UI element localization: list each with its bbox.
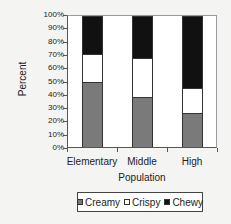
bar-middle: [132, 16, 153, 147]
y-tick-label: 60%: [34, 64, 64, 72]
y-tick-label: 30%: [34, 104, 64, 112]
legend-item-creamy: Creamy: [77, 197, 120, 208]
y-tick-label: 50%: [34, 78, 64, 86]
bar-segment-crispy: [132, 58, 153, 97]
legend-swatch-icon: [124, 199, 130, 205]
x-category-label: High: [162, 156, 222, 167]
y-axis-label: Percent: [16, 59, 30, 99]
legend-swatch-icon: [164, 199, 170, 205]
plot-area: [67, 15, 217, 148]
bar-high: [182, 16, 203, 147]
x-tick-mark: [217, 148, 218, 152]
legend-swatch-icon: [77, 199, 83, 205]
x-axis-label: Population: [112, 172, 172, 183]
y-tick-label: 0%: [34, 144, 64, 152]
bar-segment-creamy: [82, 82, 103, 148]
bar-segment-chewy: [132, 16, 153, 58]
x-tick-mark: [67, 148, 68, 152]
y-tick-label: 70%: [34, 51, 64, 59]
x-tick-mark: [117, 148, 118, 152]
legend-label: Creamy: [85, 197, 120, 208]
legend-item-chewy: Chewy: [164, 197, 203, 208]
bar-segment-crispy: [82, 54, 103, 82]
y-tick-label: 90%: [34, 24, 64, 32]
bar-segment-creamy: [132, 97, 153, 147]
bar-segment-chewy: [82, 16, 103, 54]
legend-item-crispy: Crispy: [124, 197, 160, 208]
y-tick-label: 10%: [34, 131, 64, 139]
legend-label: Crispy: [132, 197, 160, 208]
y-tick-label: 20%: [34, 117, 64, 125]
bar-segment-crispy: [182, 88, 203, 113]
bar-elementary: [82, 16, 103, 147]
bar-segment-creamy: [182, 113, 203, 147]
y-tick-label: 40%: [34, 91, 64, 99]
legend: CreamyCrispyChewy: [77, 192, 203, 212]
legend-label: Chewy: [172, 197, 203, 208]
bar-segment-chewy: [182, 16, 203, 88]
y-tick-label: 80%: [34, 38, 64, 46]
y-tick-label: 100%: [34, 11, 64, 19]
x-tick-mark: [167, 148, 168, 152]
